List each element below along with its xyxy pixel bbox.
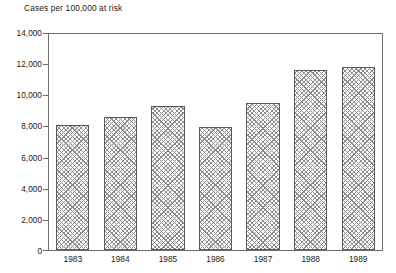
bar-1987 [246, 103, 279, 250]
bar-chart: Cases per 100,000 at risk 02,0004,0006,0… [0, 0, 396, 273]
x-axis-tick-label: 1984 [111, 254, 129, 264]
x-axis-tick-label: 1983 [64, 254, 82, 264]
y-axis-tick-label: 14,000 [17, 28, 42, 38]
x-axis-tick-label: 1987 [254, 254, 272, 264]
x-axis-tick-label: 1985 [159, 254, 177, 264]
y-axis-tick-label: 6,000 [21, 153, 42, 163]
y-axis-tick-label: 2,000 [21, 215, 42, 225]
x-axis-tick-label: 1988 [301, 254, 319, 264]
bar-1983 [56, 125, 89, 250]
bar-slot [151, 34, 184, 250]
bar-1989 [342, 67, 375, 250]
bars-layer [49, 34, 382, 250]
y-axis-tick-label: 8,000 [21, 121, 42, 131]
bar-slot [199, 34, 232, 250]
chart-title: Cases per 100,000 at risk [24, 3, 122, 13]
bar-1986 [199, 127, 232, 250]
y-axis-tick-label: 0 [37, 246, 42, 256]
bar-slot [104, 34, 137, 250]
bar-1988 [294, 70, 327, 251]
x-axis-labels: 1983198419851986198719881989 [49, 254, 382, 270]
y-axis-tick-label: 12,000 [17, 59, 42, 69]
bar-1984 [104, 117, 137, 250]
y-axis-labels: 02,0004,0006,0008,00010,00012,00014,000 [0, 33, 42, 251]
y-axis-tick-label: 10,000 [17, 90, 42, 100]
bar-slot [342, 34, 375, 250]
bar-slot [294, 34, 327, 250]
y-axis-tick-label: 4,000 [21, 184, 42, 194]
bar-1985 [151, 106, 184, 250]
x-axis-tick-label: 1986 [206, 254, 224, 264]
x-axis-tick-label: 1989 [349, 254, 367, 264]
bar-slot [246, 34, 279, 250]
bar-slot [56, 34, 89, 250]
